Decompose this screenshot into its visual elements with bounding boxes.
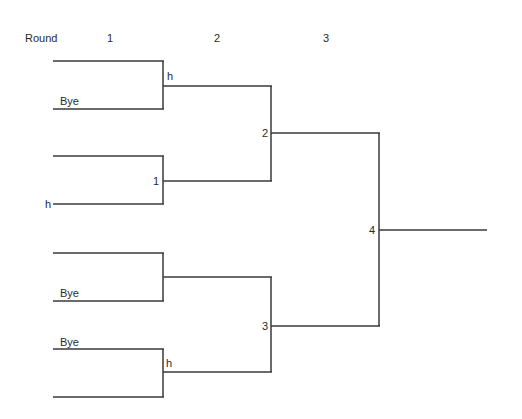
bracket-lines (0, 0, 522, 419)
round-3-header: 3 (323, 32, 329, 44)
match-winner-label: h (166, 357, 172, 369)
round-2-header: 2 (214, 32, 220, 44)
slot-h: h (45, 198, 51, 210)
match-number-1: 1 (153, 175, 159, 187)
match-number-3: 3 (262, 320, 268, 332)
slot-bye: Bye (60, 336, 79, 348)
match-number-2: 2 (262, 127, 268, 139)
round-1-header: 1 (107, 32, 113, 44)
round-header-label: Round (25, 32, 57, 44)
slot-bye: Bye (60, 287, 79, 299)
slot-bye: Bye (60, 95, 79, 107)
match-number-4: 4 (369, 224, 375, 236)
match-winner-label: h (167, 70, 173, 82)
